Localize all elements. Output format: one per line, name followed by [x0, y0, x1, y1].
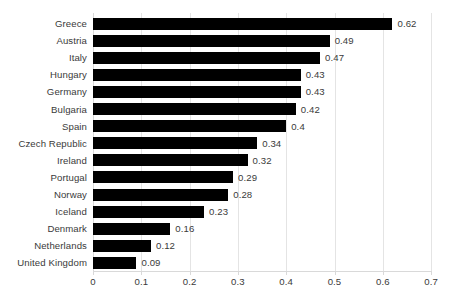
category-label: Netherlands: [34, 237, 87, 254]
bar: [93, 69, 301, 81]
category-label: Hungary: [50, 66, 87, 83]
bar-value-label: 0.47: [325, 49, 344, 66]
bar: [93, 223, 170, 235]
bar-row: Ireland0.32: [0, 152, 460, 169]
bar-value-label: 0.49: [335, 32, 354, 49]
axis-tick-0.7: [431, 272, 432, 275]
category-label: Denmark: [47, 220, 87, 237]
axis-tick-0.1: [141, 272, 142, 275]
bar: [93, 206, 204, 218]
bar-value-label: 0.34: [262, 135, 281, 152]
axis-tick-0.2: [190, 272, 191, 275]
bar-value-label: 0.4: [291, 118, 305, 135]
category-label: Norway: [54, 186, 87, 203]
bar-value-label: 0.16: [175, 220, 194, 237]
bar: [93, 189, 228, 201]
bar: [93, 103, 296, 115]
x-tick-label: 0.4: [266, 276, 306, 287]
category-label: Greece: [55, 15, 87, 32]
bar-value-label: 0.43: [306, 66, 325, 83]
bar: [93, 35, 330, 47]
bar-value-label: 0.62: [397, 15, 416, 32]
bar-value-label: 0.28: [233, 186, 252, 203]
bar: [93, 52, 320, 64]
bar-value-label: 0.12: [156, 237, 175, 254]
category-label: Czech Republic: [18, 135, 87, 152]
category-label: Bulgaria: [51, 101, 87, 118]
x-tick-label: 0.6: [363, 276, 403, 287]
axis-tick-0.3: [238, 272, 239, 275]
bar-row: Germany0.43: [0, 83, 460, 100]
bar-row: Italy0.47: [0, 49, 460, 66]
bar-value-label: 0.42: [301, 101, 320, 118]
bar-row: United Kingdom0.09: [0, 254, 460, 271]
bar: [93, 86, 301, 98]
axis-tick-0.6: [383, 272, 384, 275]
bar-row: Bulgaria0.42: [0, 101, 460, 118]
bar-row: Norway0.28: [0, 186, 460, 203]
bar: [93, 18, 392, 30]
category-label: Italy: [69, 49, 87, 66]
bar-value-label: 0.29: [238, 169, 257, 186]
x-tick-label: 0.1: [121, 276, 161, 287]
x-tick-label: 0.3: [218, 276, 258, 287]
category-label: Spain: [62, 118, 87, 135]
category-label: Austria: [56, 32, 87, 49]
bar: [93, 171, 233, 183]
category-label: United Kingdom: [17, 254, 87, 271]
bar-row: Austria0.49: [0, 32, 460, 49]
bar: [93, 240, 151, 252]
bar-row: Denmark0.16: [0, 220, 460, 237]
bar-value-label: 0.32: [253, 152, 272, 169]
bar-value-label: 0.09: [141, 254, 160, 271]
bar-value-label: 0.43: [306, 83, 325, 100]
bar-row: Portugal0.29: [0, 169, 460, 186]
x-tick-label: 0.5: [315, 276, 355, 287]
bar-row: Greece0.62: [0, 15, 460, 32]
bar-row: Spain0.4: [0, 118, 460, 135]
bar-row: Czech Republic0.34: [0, 135, 460, 152]
bar: [93, 257, 136, 269]
bar-row: Hungary0.43: [0, 66, 460, 83]
x-tick-label: 0.7: [411, 276, 451, 287]
axis-tick-0.5: [335, 272, 336, 275]
bar: [93, 137, 257, 149]
bar-value-label: 0.23: [209, 203, 228, 220]
bar: [93, 120, 286, 132]
category-label: Germany: [47, 83, 87, 100]
bar: [93, 154, 248, 166]
axis-tick-0.4: [286, 272, 287, 275]
bar-row: Iceland0.23: [0, 203, 460, 220]
axis-tick-0: [93, 272, 94, 275]
bar-row: Netherlands0.12: [0, 237, 460, 254]
category-label: Portugal: [50, 169, 87, 186]
horizontal-bar-chart: Greece0.62Austria0.49Italy0.47Hungary0.4…: [0, 0, 460, 301]
category-label: Iceland: [55, 203, 87, 220]
category-label: Ireland: [57, 152, 87, 169]
x-tick-label: 0.2: [170, 276, 210, 287]
x-tick-label: 0: [73, 276, 113, 287]
